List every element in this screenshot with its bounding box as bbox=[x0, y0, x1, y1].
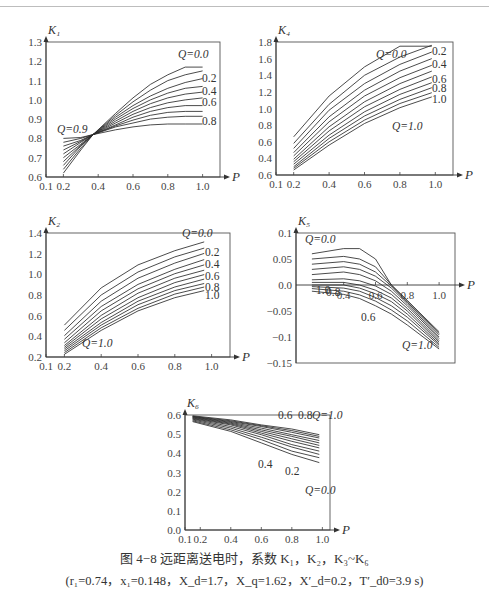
x-tick-label: 0.1 bbox=[39, 180, 53, 192]
x-tick-label: 0.1 bbox=[39, 360, 53, 372]
y-tick-label: 1.2 bbox=[28, 55, 42, 67]
figure-caption-title: 图 4−8 远距离送电时，系数 K₁，K₂，K₃~K₆ bbox=[0, 548, 489, 567]
y-tick-label: 0.8 bbox=[258, 119, 272, 131]
plot-frame bbox=[276, 42, 453, 175]
series-annotation: Q=1.0 bbox=[402, 339, 433, 351]
x-tick-label: 1.0 bbox=[196, 180, 210, 192]
series-annotation: Q=0.0 bbox=[178, 48, 209, 60]
series-annotation: 0.6 bbox=[361, 311, 376, 323]
figure-caption-params: (r₁=0.74，x₁=0.148，X_d=1.7，X_q=1.62，X′_d=… bbox=[0, 570, 489, 589]
plot-frame bbox=[46, 42, 220, 177]
series-line bbox=[294, 59, 432, 153]
x-axis-label: P bbox=[464, 167, 473, 182]
y-tick-label: 1.3 bbox=[28, 36, 42, 48]
x-tick-label: 0.6 bbox=[131, 360, 145, 372]
x-tick-label: 0.6 bbox=[358, 178, 372, 190]
x-tick-label: 1.0 bbox=[205, 360, 219, 372]
y-tick-label: 1.0 bbox=[28, 268, 42, 280]
series-line bbox=[64, 253, 204, 335]
y-axis-label: K₅ bbox=[297, 214, 310, 228]
y-tick-label: 1.0 bbox=[258, 103, 272, 115]
x-tick-label: 0.2 bbox=[58, 360, 72, 372]
y-tick-label: 1.2 bbox=[258, 86, 272, 98]
x-tick-label: 1.0 bbox=[315, 533, 329, 545]
x-tick-label: 0.8 bbox=[161, 180, 175, 192]
series-annotation: 0.8 bbox=[202, 115, 217, 127]
series-line bbox=[63, 79, 202, 166]
chart-k2: K₂P0.20.40.60.81.01.21.40.10.20.40.60.81… bbox=[28, 214, 250, 372]
x-axis-arrow-icon bbox=[334, 528, 340, 533]
series-annotation: 0.2 bbox=[205, 246, 220, 258]
series-annotation: 0.6 bbox=[278, 409, 293, 421]
x-tick-label: 0.8 bbox=[168, 360, 182, 372]
y-axis-label: K₁ bbox=[47, 23, 60, 37]
x-tick-label: 0.2 bbox=[193, 533, 207, 545]
x-tick-label: 0.1 bbox=[269, 178, 283, 190]
y-tick-label: 0.6 bbox=[167, 409, 181, 421]
series-annotation: Q=1.0 bbox=[82, 337, 113, 349]
y-tick-label: 0.0 bbox=[278, 279, 292, 291]
series-annotation: 0.6 bbox=[202, 96, 217, 108]
series-annotation: 0.2 bbox=[432, 45, 447, 57]
series-annotation: 0.4 bbox=[205, 258, 220, 270]
y-tick-label: −0.15 bbox=[267, 357, 293, 369]
x-axis-label: P bbox=[231, 169, 240, 184]
figure-canvas: K₁P0.60.70.80.91.01.11.21.30.10.20.40.60… bbox=[0, 0, 489, 603]
x-axis-label: P bbox=[341, 522, 350, 537]
x-tick-label: 0.4 bbox=[322, 178, 336, 190]
y-tick-label: 0.7 bbox=[28, 152, 42, 164]
series-annotation: Q=1.0 bbox=[312, 409, 343, 421]
x-tick-label: 0.8 bbox=[285, 533, 299, 545]
y-tick-label: 0.5 bbox=[167, 428, 181, 440]
x-axis-arrow-icon bbox=[457, 173, 463, 178]
chart-k5: K₅P0.10.050.0−0.05−0.1−0.150.40.60.81.0Q… bbox=[267, 214, 475, 369]
y-tick-label: −0.1 bbox=[272, 331, 292, 343]
x-tick-label: 0.8 bbox=[393, 178, 407, 190]
x-axis-arrow-icon bbox=[224, 175, 230, 180]
x-axis-arrow-icon bbox=[234, 355, 240, 360]
y-tick-label: 1.8 bbox=[258, 36, 272, 48]
series-annotation: Q=0.0 bbox=[182, 227, 213, 239]
series-annotation: Q=1.0 bbox=[392, 120, 423, 132]
x-tick-label: 0.4 bbox=[94, 360, 108, 372]
y-tick-label: 0.8 bbox=[28, 132, 42, 144]
y-axis-label: K₄ bbox=[277, 23, 290, 37]
x-tick-label: 1.0 bbox=[428, 178, 442, 190]
y-tick-label: 0.05 bbox=[273, 253, 293, 265]
series-annotation: Q=0.9 bbox=[57, 123, 88, 135]
y-tick-label: −0.05 bbox=[267, 305, 293, 317]
series-annotation: 1.0 bbox=[205, 289, 220, 301]
x-tick-label: 0.1 bbox=[178, 533, 192, 545]
y-tick-label: 0.4 bbox=[258, 152, 272, 164]
x-tick-label: 1.0 bbox=[432, 289, 446, 301]
y-tick-label: 0.2 bbox=[167, 486, 181, 498]
y-tick-label: 0.3 bbox=[167, 467, 181, 479]
y-tick-label: 1.2 bbox=[28, 248, 42, 260]
y-tick-label: 0.4 bbox=[28, 330, 42, 342]
x-axis-arrow-icon bbox=[459, 283, 465, 288]
y-tick-label: 1.4 bbox=[258, 69, 272, 81]
chart-k4: K₄P0.60.40.60.81.01.21.41.61.80.10.20.40… bbox=[258, 23, 473, 190]
y-axis-label: K₆ bbox=[186, 396, 199, 410]
x-tick-label: 0.4 bbox=[224, 533, 238, 545]
x-tick-label: 0.6 bbox=[126, 180, 140, 192]
y-tick-label: 0.8 bbox=[28, 289, 42, 301]
series-annotation: 0.8 bbox=[326, 286, 341, 298]
series-annotation: Q=0.0 bbox=[305, 233, 336, 245]
x-tick-label: 0.4 bbox=[91, 180, 105, 192]
series-annotation: Q=0.0 bbox=[305, 484, 336, 496]
x-tick-label: 0.2 bbox=[57, 180, 71, 192]
series-annotation: 0.4 bbox=[258, 458, 273, 470]
chart-k6: K₆P0.00.10.20.30.40.50.60.10.20.40.60.81… bbox=[167, 396, 350, 545]
series-annotation: 1.0 bbox=[432, 93, 447, 105]
series-annotation: 0.8 bbox=[298, 409, 313, 421]
y-tick-label: 0.1 bbox=[167, 505, 181, 517]
y-tick-label: 1.4 bbox=[28, 227, 42, 239]
y-tick-label: 0.6 bbox=[258, 136, 272, 148]
chart-k1: K₁P0.60.70.80.91.01.11.21.30.10.20.40.60… bbox=[28, 23, 240, 192]
y-axis-label: K₂ bbox=[47, 214, 60, 228]
y-tick-label: 0.9 bbox=[28, 113, 42, 125]
series-line bbox=[294, 71, 432, 159]
series-annotation: 0.2 bbox=[285, 465, 300, 477]
x-tick-label: 0.6 bbox=[254, 533, 268, 545]
